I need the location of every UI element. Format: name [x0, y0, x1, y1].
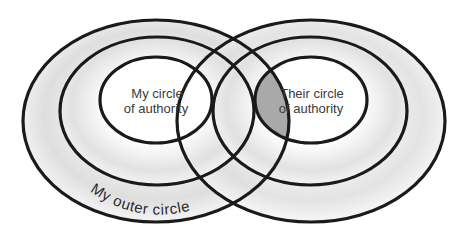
my-circle-label-line1: My circle	[131, 86, 182, 101]
ring-fills	[23, 20, 445, 222]
my-circle-label-line2: of authority	[124, 101, 189, 116]
their-circle-label-line1: Their circle	[280, 86, 344, 101]
their-circle-label-line2: of authority	[279, 101, 344, 116]
circles-of-authority-diagram: My circle of authority Their circle of a…	[0, 0, 466, 239]
